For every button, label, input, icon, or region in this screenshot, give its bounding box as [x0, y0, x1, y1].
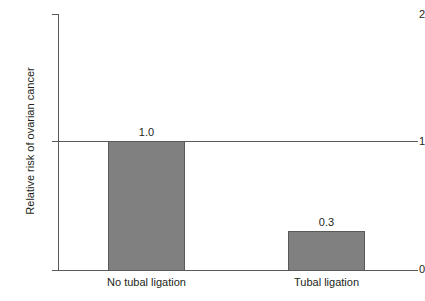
bar-tubal-ligation[interactable] [288, 231, 365, 271]
bar-no-tubal-ligation[interactable] [108, 141, 185, 271]
x-category-label-no-tubal-ligation: No tubal ligation [66, 276, 227, 289]
bar-value-label-tubal-ligation: 0.3 [288, 216, 365, 228]
y-tick-label-2: 2 [379, 9, 425, 20]
x-category-label-tubal-ligation: Tubal ligation [246, 276, 407, 289]
y-tick-mark-2 [52, 14, 59, 15]
bar-value-label-no-tubal-ligation: 1.0 [108, 126, 185, 138]
bar-chart-figure: Relative risk of ovarian cancer 2 1 0 1.… [0, 0, 425, 301]
y-axis-title: Relative risk of ovarian cancer [24, 26, 36, 256]
y-axis-line [58, 14, 59, 271]
